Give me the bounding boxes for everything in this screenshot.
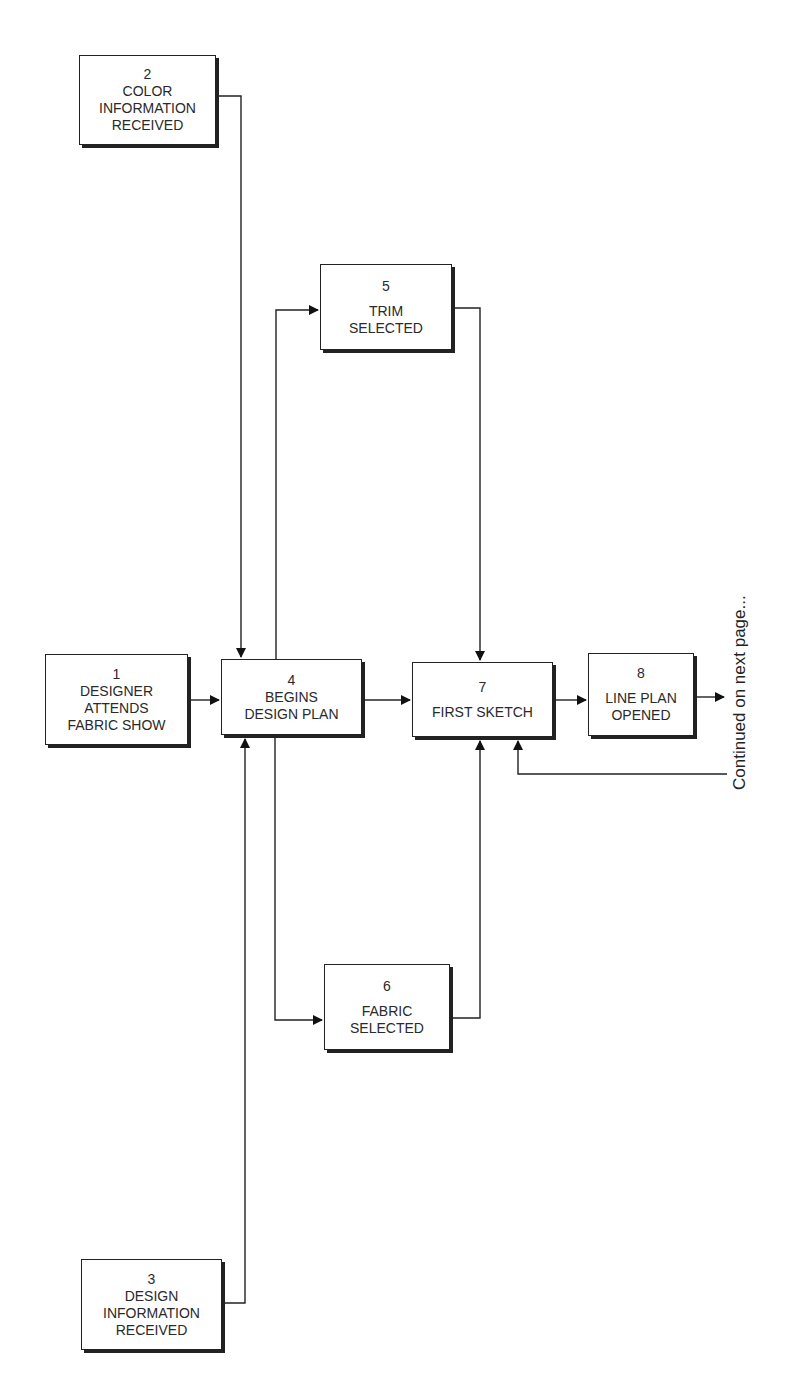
edge-4-5 [276,310,318,659]
node-label: LINE PLAN OPENED [605,690,677,724]
node-7: 7 FIRST SKETCH [412,662,553,737]
node-number: 4 [288,672,296,689]
node-8: 8 LINE PLAN OPENED [588,653,694,736]
continuation-note: Continued on next page... [730,595,750,790]
node-6: 6 FABRIC SELECTED [324,964,450,1050]
edge-5-7 [452,308,480,660]
node-label: DESIGN INFORMATION RECEIVED [103,1288,200,1339]
edge-next-7 [518,741,727,774]
node-number: 3 [148,1271,156,1288]
edge-6-7 [450,741,480,1018]
node-label: TRIM SELECTED [349,303,423,337]
node-number: 2 [144,66,152,83]
edge-2-4 [216,96,241,657]
node-label: FIRST SKETCH [432,704,533,721]
node-5: 5 TRIM SELECTED [320,264,452,350]
node-label: FABRIC SELECTED [350,1003,424,1037]
node-number: 5 [382,278,390,295]
node-label: COLOR INFORMATION RECEIVED [99,83,196,134]
node-number: 8 [637,665,645,682]
node-number: 1 [113,666,121,683]
edge-3-4 [222,739,245,1303]
node-label: DESIGNER ATTENDS FABRIC SHOW [67,683,165,734]
node-1: 1 DESIGNER ATTENDS FABRIC SHOW [45,654,188,745]
node-label: BEGINS DESIGN PLAN [244,689,338,723]
node-number: 6 [383,978,391,995]
node-3: 3 DESIGN INFORMATION RECEIVED [81,1259,222,1350]
node-number: 7 [479,679,487,696]
edge-4-6 [275,735,322,1020]
node-2: 2 COLOR INFORMATION RECEIVED [79,55,216,145]
node-4: 4 BEGINS DESIGN PLAN [221,659,362,735]
